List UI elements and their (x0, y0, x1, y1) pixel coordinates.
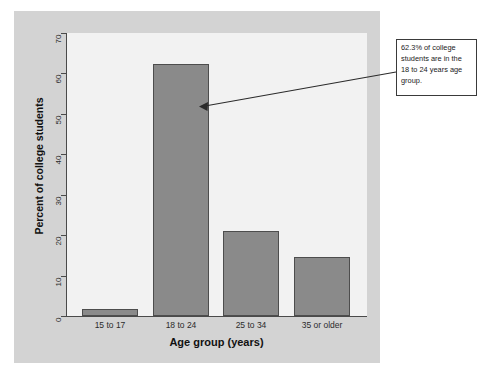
y-tick-label-20: 20 (54, 237, 63, 259)
y-tick-label-70: 70 (54, 35, 63, 57)
x-axis-title: Age group (years) (66, 336, 367, 348)
y-axis-line (66, 33, 67, 316)
x-tick-label-25-to-34: 25 to 34 (221, 320, 281, 330)
y-tick-10 (61, 276, 66, 277)
y-tick-label-0: 0 (54, 318, 63, 340)
y-tick-label-10: 10 (54, 277, 63, 299)
bar-35-or-older (294, 257, 350, 316)
annotation-callout: 62.3% of college students are in the 18 … (396, 39, 477, 96)
chart-figure: 0 10 20 30 40 50 60 70 Percent of colleg… (0, 0, 492, 377)
x-tick-label-18-to-24: 18 to 24 (151, 320, 211, 330)
y-tick-label-40: 40 (54, 156, 63, 178)
bar-18-to-24 (153, 64, 209, 316)
bar-15-to-17 (82, 309, 138, 316)
x-tick-label-15-to-17: 15 to 17 (80, 320, 140, 330)
x-tick-label-35-or-older: 35 or older (292, 320, 352, 330)
x-axis-line (66, 316, 367, 317)
y-tick-label-60: 60 (54, 75, 63, 97)
y-tick-label-50: 50 (54, 115, 63, 137)
y-axis-title: Percent of college students (33, 86, 45, 246)
y-tick-label-30: 30 (54, 196, 63, 218)
bar-25-to-34 (223, 231, 279, 316)
